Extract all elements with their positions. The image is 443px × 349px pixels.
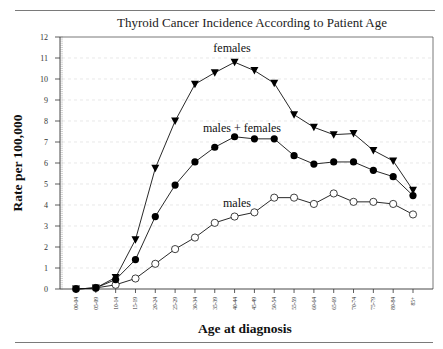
marker-open-circle <box>132 275 139 282</box>
marker-triangle <box>250 67 258 75</box>
marker-open-circle <box>152 260 159 267</box>
marker-filled-circle <box>172 181 179 188</box>
x-tick-label: 40-44 <box>232 297 238 310</box>
marker-filled-circle <box>152 213 159 220</box>
series-line-males-females <box>76 137 413 289</box>
marker-filled-circle <box>191 158 198 165</box>
marker-open-circle <box>330 190 337 197</box>
y-tick-label: 7 <box>44 138 48 147</box>
marker-triangle <box>369 147 377 155</box>
marker-triangle <box>151 165 159 173</box>
x-tick-label: 30-34 <box>192 297 198 310</box>
y-tick-label: 6 <box>44 159 48 168</box>
marker-open-circle <box>211 219 218 226</box>
chart-title: Thyroid Cancer Incidence According to Pa… <box>117 15 387 30</box>
marker-filled-circle <box>251 135 258 142</box>
y-tick-label: 12 <box>40 33 48 42</box>
plot-area: 012345678910111200-0405-0910-1415-1920-2… <box>40 33 433 310</box>
marker-triangle <box>270 80 278 88</box>
marker-open-circle <box>390 200 397 207</box>
marker-triangle <box>131 236 139 244</box>
marker-triangle <box>191 81 199 89</box>
x-tick-label: 20-24 <box>152 297 158 310</box>
marker-filled-circle <box>211 144 218 151</box>
y-tick-label: 2 <box>44 243 48 252</box>
marker-filled-circle <box>370 167 377 174</box>
y-tick-label: 10 <box>40 75 48 84</box>
marker-open-circle <box>271 194 278 201</box>
series-line-females <box>76 62 413 289</box>
x-tick-label: 55-59 <box>291 297 297 310</box>
annotation-males-females: males + females <box>203 121 281 135</box>
line-chart: Thyroid Cancer Incidence According to Pa… <box>0 0 443 349</box>
marker-open-circle <box>191 234 198 241</box>
marker-open-circle <box>290 194 297 201</box>
marker-triangle <box>211 69 219 77</box>
marker-open-circle <box>370 198 377 205</box>
x-tick-label: 45-49 <box>251 297 257 310</box>
marker-filled-circle <box>132 256 139 263</box>
y-tick-label: 4 <box>44 201 48 210</box>
annotation-females: females <box>213 41 251 55</box>
marker-triangle <box>389 157 397 165</box>
x-tick-label: 50-54 <box>271 297 277 310</box>
y-tick-label: 5 <box>44 180 48 189</box>
marker-filled-circle <box>350 158 357 165</box>
y-tick-label: 9 <box>44 96 48 105</box>
y-tick-label: 8 <box>44 117 48 126</box>
marker-open-circle <box>310 200 317 207</box>
marker-triangle <box>310 124 318 132</box>
marker-filled-circle <box>310 160 317 167</box>
x-tick-label: 00-04 <box>73 297 79 310</box>
x-tick-label: 25-29 <box>172 297 178 310</box>
y-tick-label: 0 <box>44 285 48 294</box>
y-tick-label: 11 <box>40 54 48 63</box>
x-tick-label: 80-84 <box>390 297 396 310</box>
x-tick-label: 65-69 <box>331 297 337 310</box>
x-tick-label: 70-74 <box>351 297 357 310</box>
marker-open-circle <box>172 246 179 253</box>
x-tick-label: 85+ <box>410 297 416 306</box>
x-tick-label: 35-39 <box>212 297 218 310</box>
x-tick-label: 10-14 <box>113 297 119 310</box>
marker-open-circle <box>251 209 258 216</box>
x-axis-label: Age at diagnosis <box>198 321 292 336</box>
marker-filled-circle <box>330 158 337 165</box>
y-tick-label: 1 <box>44 264 48 273</box>
marker-open-circle <box>350 198 357 205</box>
x-tick-label: 60-64 <box>311 297 317 310</box>
x-tick-label: 75-79 <box>370 297 376 310</box>
marker-filled-circle <box>271 135 278 142</box>
x-tick-label: 05-09 <box>93 297 99 310</box>
y-axis-label: Rate per 100,000 <box>10 114 25 211</box>
marker-triangle <box>290 111 298 119</box>
marker-open-circle <box>409 211 416 218</box>
annotation-males: males <box>223 196 251 210</box>
marker-triangle <box>231 59 239 66</box>
marker-open-circle <box>231 213 238 220</box>
marker-filled-circle <box>290 152 297 159</box>
marker-filled-circle <box>390 173 397 180</box>
y-tick-label: 3 <box>44 222 48 231</box>
x-tick-label: 15-19 <box>132 297 138 310</box>
